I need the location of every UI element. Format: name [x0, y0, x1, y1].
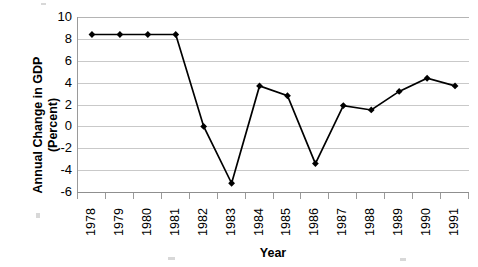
x-axis-title: Year	[77, 246, 469, 260]
x-tick-label-1991: 1991	[447, 200, 461, 244]
x-tick-label-1978: 1978	[84, 200, 98, 244]
x-tick-label-1987: 1987	[335, 200, 349, 244]
x-tick-label-1985: 1985	[279, 200, 293, 244]
gdp-series-line	[78, 17, 469, 192]
y-tick-label-10: 10	[34, 10, 72, 24]
data-point-1985	[284, 92, 291, 99]
data-point-1991	[452, 83, 459, 90]
data-point-1986	[312, 160, 319, 167]
data-point-1983	[228, 180, 235, 187]
series-polyline	[92, 35, 455, 184]
scan-speckle	[41, 3, 46, 5]
y-tick-label-6: 6	[34, 54, 72, 68]
y-tick-label-4: 4	[34, 76, 72, 90]
y-tick-label-0: 0	[34, 119, 72, 133]
data-point-1978	[89, 31, 96, 38]
y-tick-label--4: -4	[34, 163, 72, 177]
x-axis-tick-labels: 1978197919801981198219831984198519861987…	[77, 199, 469, 243]
data-point-1981	[172, 31, 179, 38]
x-tick-label-1979: 1979	[112, 200, 126, 244]
x-tick-label-1989: 1989	[391, 200, 405, 244]
y-tick-label--2: -2	[34, 141, 72, 155]
plot-area	[77, 17, 469, 192]
data-point-1984	[256, 83, 263, 90]
y-tick-label--6: -6	[34, 185, 72, 199]
data-point-1979	[116, 31, 123, 38]
data-point-1982	[200, 123, 207, 130]
x-tick-label-1982: 1982	[196, 200, 210, 244]
x-tick-label-1988: 1988	[363, 200, 377, 244]
y-tick-label-2: 2	[34, 98, 72, 112]
x-tick-label-1983: 1983	[224, 200, 238, 244]
x-tick-label-1984: 1984	[252, 200, 266, 244]
gdp-annual-change-line-chart: Annual Change in GDP (Percent) 1086420-2…	[0, 0, 478, 267]
x-tick-label-1980: 1980	[140, 200, 154, 244]
data-point-1987	[340, 102, 347, 109]
x-tick-label-1990: 1990	[419, 200, 433, 244]
y-tick-label-8: 8	[34, 32, 72, 46]
x-tick-label-1986: 1986	[307, 200, 321, 244]
data-point-1990	[424, 75, 431, 82]
data-point-1980	[144, 31, 151, 38]
x-tick-label-1981: 1981	[168, 200, 182, 244]
y-axis-tick-labels: 1086420-2-4-6	[34, 10, 72, 194]
